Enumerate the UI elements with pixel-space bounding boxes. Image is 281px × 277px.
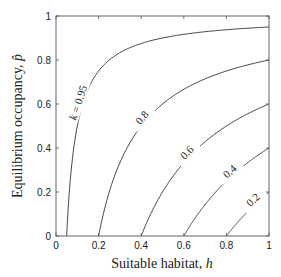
curve-label-k-0.8: 0.8 (128, 103, 155, 132)
curve-labels-group: k = 0.950.80.60.40.2 (65, 78, 267, 214)
y-tick-label: 0.6 (37, 99, 51, 110)
y-tick-label: 1 (45, 11, 51, 22)
x-tick-label: 0.4 (134, 240, 148, 251)
ticks-group: 00.20.40.60.8100.20.40.60.81 (37, 11, 272, 251)
y-tick-label: 0.4 (37, 143, 51, 154)
x-tick-label: 0.2 (92, 240, 106, 251)
y-tick-label: 0.8 (37, 55, 51, 66)
curve-label-k-0.6: 0.6 (173, 138, 201, 166)
x-tick-label: 0.8 (219, 240, 233, 251)
x-tick-label: 1 (266, 240, 272, 251)
plot-frame (56, 16, 269, 236)
curve-label-k-0.2: 0.2 (238, 186, 267, 214)
curve-k-0.6 (141, 104, 269, 236)
y-tick-label: 0.2 (37, 187, 51, 198)
curve-label-k-0.95: k = 0.95 (65, 78, 91, 127)
y-tick-label: 0 (45, 231, 51, 242)
svg-text:k = 0.95: k = 0.95 (67, 83, 90, 121)
x-tick-label: 0.6 (177, 240, 191, 251)
x-tick-label: 0 (53, 240, 59, 251)
occupancy-chart: 00.20.40.60.8100.20.40.60.81 k = 0.950.8… (0, 0, 281, 277)
curve-label-k-0.4: 0.4 (215, 157, 244, 185)
x-axis-title: Suitable habitat, h (111, 256, 212, 271)
y-axis-title: Equilibrium occupancy, p̂ (10, 54, 25, 198)
curve-k-0.95 (67, 27, 269, 236)
curves-group (67, 27, 269, 236)
